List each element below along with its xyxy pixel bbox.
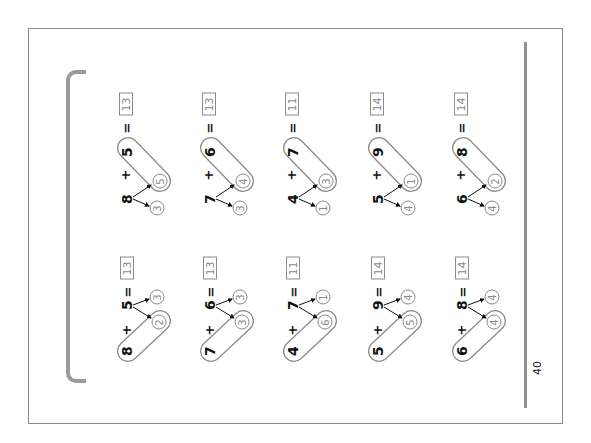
make-ten-circle-value: 1 (406, 178, 416, 184)
make-ten-circle[interactable]: 5 (403, 315, 418, 330)
leftover-circle[interactable]: 3 (150, 290, 165, 305)
leftover-circle-value: 3 (235, 205, 245, 211)
leftover-circle-value: 3 (235, 294, 245, 300)
make-ten-circle[interactable]: 4 (487, 315, 502, 330)
leftover-circle[interactable]: 3 (150, 201, 165, 216)
plus-sign: + (286, 325, 299, 336)
leftover-circle[interactable]: 1 (316, 290, 331, 305)
plus-sign: + (285, 170, 298, 181)
addend-1: 4 (286, 346, 300, 356)
equals-sign: = (204, 287, 217, 298)
answer-box[interactable]: 13 (202, 93, 216, 116)
addend-1: 7 (203, 346, 217, 356)
equals-sign: = (286, 123, 299, 134)
plus-sign: + (371, 325, 384, 336)
addend-2: 6 (203, 300, 217, 310)
answer-box-value: 14 (456, 261, 469, 275)
answer-box[interactable]: 14 (370, 93, 384, 116)
addend-1: 4 (286, 194, 300, 204)
leftover-circle[interactable]: 4 (485, 290, 500, 305)
answer-box-value: 11 (287, 261, 300, 275)
make-ten-circle[interactable]: 6 (318, 315, 333, 330)
addend-1: 6 (455, 194, 469, 204)
plus-sign: + (202, 170, 215, 181)
equals-sign: = (287, 287, 300, 298)
leftover-circle-value: 4 (487, 294, 497, 300)
make-ten-circle[interactable]: 1 (404, 174, 419, 189)
make-ten-circle-value: 4 (238, 178, 248, 184)
answer-box[interactable]: 11 (285, 93, 299, 116)
answer-box-value: 13 (121, 261, 134, 275)
addend-1: 5 (371, 194, 385, 204)
make-ten-circle[interactable]: 2 (152, 315, 167, 330)
answer-box-value: 13 (204, 261, 217, 275)
leftover-circle[interactable]: 3 (233, 290, 248, 305)
addend-2: 7 (286, 147, 300, 157)
make-ten-circle-value: 3 (321, 178, 331, 184)
plus-sign: + (119, 170, 132, 181)
answer-box[interactable]: 14 (454, 93, 468, 116)
equals-sign: = (203, 123, 216, 134)
make-ten-circle[interactable]: 4 (236, 174, 251, 189)
addend-1: 5 (371, 346, 385, 356)
addend-1: 8 (120, 346, 134, 356)
addend-2: 8 (455, 300, 469, 310)
answer-box-value: 13 (203, 97, 216, 111)
make-ten-circle-value: 5 (405, 319, 415, 325)
plus-sign: + (203, 325, 216, 336)
answer-box[interactable]: 13 (203, 257, 217, 280)
addend-2: 5 (120, 300, 134, 310)
answer-box-value: 13 (120, 97, 133, 111)
equals-sign: = (121, 287, 134, 298)
addend-2: 6 (203, 147, 217, 157)
make-ten-circle[interactable]: 3 (235, 315, 250, 330)
equals-sign: = (372, 287, 385, 298)
addend-2: 7 (286, 300, 300, 310)
equals-sign: = (120, 123, 133, 134)
equals-sign: = (371, 123, 384, 134)
plus-sign: + (454, 170, 467, 181)
answer-box[interactable]: 13 (119, 93, 133, 116)
plus-sign: + (455, 325, 468, 336)
equals-sign: = (456, 287, 469, 298)
answer-box-value: 14 (372, 261, 385, 275)
addend-1: 8 (120, 194, 134, 204)
leftover-circle-value: 1 (318, 205, 328, 211)
addend-2: 8 (455, 147, 469, 157)
answer-box-value: 11 (286, 97, 299, 111)
make-ten-circle-value: 6 (320, 319, 330, 325)
make-ten-circle[interactable]: 5 (153, 174, 168, 189)
leftover-circle-value: 3 (152, 205, 162, 211)
leftover-circle[interactable]: 3 (233, 201, 248, 216)
leftover-circle[interactable]: 1 (316, 201, 331, 216)
leftover-circle-value: 3 (152, 294, 162, 300)
answer-box-value: 14 (455, 97, 468, 111)
addend-2: 9 (371, 300, 385, 310)
answer-box-value: 14 (371, 97, 384, 111)
leftover-circle[interactable]: 4 (485, 201, 500, 216)
leftover-circle[interactable]: 4 (401, 201, 416, 216)
addend-1: 6 (455, 346, 469, 356)
answer-box[interactable]: 13 (120, 257, 134, 280)
make-ten-circle-value: 2 (490, 178, 500, 184)
addend-2: 9 (371, 147, 385, 157)
answer-box[interactable]: 11 (286, 257, 300, 280)
make-ten-circle-value: 5 (155, 178, 165, 184)
make-ten-circle-value: 2 (154, 319, 164, 325)
pill-and-arrow-overlay (0, 0, 591, 443)
answer-box[interactable]: 14 (371, 257, 385, 280)
leftover-circle-value: 4 (403, 294, 413, 300)
answer-box[interactable]: 14 (455, 257, 469, 280)
addend-1: 7 (203, 194, 217, 204)
make-ten-circle-value: 4 (489, 319, 499, 325)
leftover-circle-value: 1 (318, 294, 328, 300)
equals-sign: = (455, 123, 468, 134)
plus-sign: + (370, 170, 383, 181)
make-ten-circle-value: 3 (237, 319, 247, 325)
make-ten-circle[interactable]: 2 (488, 174, 503, 189)
plus-sign: + (120, 325, 133, 336)
leftover-circle[interactable]: 4 (401, 290, 416, 305)
leftover-circle-value: 4 (403, 205, 413, 211)
make-ten-circle[interactable]: 3 (319, 174, 334, 189)
addend-2: 5 (120, 147, 134, 157)
